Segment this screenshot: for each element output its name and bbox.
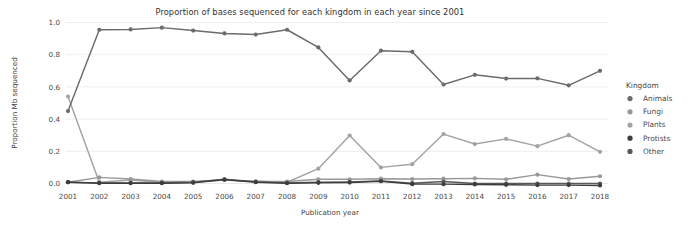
legend-label-animals[interactable]: Animals xyxy=(643,94,673,103)
x-tick-label: 2012 xyxy=(403,192,421,201)
x-tick-label: 2017 xyxy=(560,192,578,201)
data-point-animals xyxy=(441,82,445,86)
data-point-protists xyxy=(128,181,132,185)
x-tick-label: 2009 xyxy=(309,192,328,201)
data-point-protists xyxy=(504,183,508,187)
y-tick-label: 0.2 xyxy=(49,147,60,156)
chart-figure: Proportion of bases sequenced for each k… xyxy=(0,0,695,227)
data-point-animals xyxy=(191,28,195,32)
chart-legend: KingdomAnimalsFungiPlantsProtistsOther xyxy=(626,81,673,156)
data-point-protists xyxy=(191,181,195,185)
x-tick-label: 2015 xyxy=(497,192,515,201)
data-point-animals xyxy=(316,45,320,49)
data-point-protists xyxy=(598,183,602,187)
data-point-animals xyxy=(348,78,352,82)
data-point-animals xyxy=(567,83,571,87)
data-point-fungi xyxy=(473,176,477,180)
x-tick-label: 2001 xyxy=(59,192,77,201)
data-point-protists xyxy=(316,181,320,185)
data-point-plants xyxy=(473,142,477,146)
legend-marker-protists[interactable] xyxy=(627,136,632,141)
data-point-animals xyxy=(285,28,289,32)
data-point-plants xyxy=(567,133,571,137)
data-point-protists xyxy=(441,182,445,186)
data-point-plants xyxy=(66,94,70,98)
y-tick-label: 0.4 xyxy=(49,115,61,124)
legend-marker-plants[interactable] xyxy=(627,122,632,127)
data-point-animals xyxy=(473,73,477,77)
data-point-protists xyxy=(254,180,258,184)
data-point-protists xyxy=(97,181,101,185)
y-tick-label: 1.0 xyxy=(49,18,61,27)
x-tick-label: 2014 xyxy=(466,192,485,201)
legend-marker-animals[interactable] xyxy=(627,96,632,101)
legend-label-plants[interactable]: Plants xyxy=(643,120,666,129)
x-tick-label: 2013 xyxy=(434,192,452,201)
data-point-animals xyxy=(222,31,226,35)
data-point-protists xyxy=(379,179,383,183)
y-tick-label: 0.8 xyxy=(49,50,61,59)
data-point-animals xyxy=(410,50,414,54)
data-point-fungi xyxy=(128,177,132,181)
x-axis-label: Publication year xyxy=(301,208,359,217)
data-point-animals xyxy=(254,32,258,36)
series-line-animals xyxy=(68,28,600,111)
data-point-fungi xyxy=(567,177,571,181)
data-point-protists xyxy=(285,181,289,185)
x-tick-label: 2016 xyxy=(528,192,547,201)
x-tick-label: 2010 xyxy=(340,192,359,201)
data-point-protists xyxy=(473,182,477,186)
data-point-plants xyxy=(316,167,320,171)
data-point-protists xyxy=(66,180,70,184)
x-tick-label: 2008 xyxy=(278,192,297,201)
x-axis-tick-labels: 2001200220032004200520062007200820092010… xyxy=(59,192,610,201)
data-point-protists xyxy=(535,183,539,187)
data-point-plants xyxy=(504,137,508,141)
series-line-plants xyxy=(68,97,600,183)
data-point-animals xyxy=(504,76,508,80)
legend-title: Kingdom xyxy=(626,81,659,90)
data-point-fungi xyxy=(535,173,539,177)
data-point-animals xyxy=(160,26,164,30)
data-point-plants xyxy=(535,144,539,148)
data-point-fungi xyxy=(410,177,414,181)
legend-marker-fungi[interactable] xyxy=(627,109,632,114)
data-point-protists xyxy=(410,182,414,186)
series-line-fungi xyxy=(68,175,600,183)
data-point-plants xyxy=(598,150,602,154)
data-point-animals xyxy=(66,109,70,113)
data-point-animals xyxy=(598,69,602,73)
data-point-fungi xyxy=(598,174,602,178)
y-axis-label: Proportion Mb sequenced xyxy=(10,57,19,149)
legend-label-fungi[interactable]: Fungi xyxy=(643,107,663,116)
y-axis-tick-labels: 0.00.20.40.60.81.0 xyxy=(49,18,61,188)
x-tick-label: 2006 xyxy=(215,192,234,201)
y-tick-label: 0.0 xyxy=(49,179,61,188)
y-tick-label: 0.6 xyxy=(49,83,61,92)
data-point-fungi xyxy=(97,175,101,179)
data-point-fungi xyxy=(504,177,508,181)
data-point-animals xyxy=(128,27,132,31)
data-point-plants xyxy=(441,132,445,136)
data-point-plants xyxy=(379,165,383,169)
data-point-protists xyxy=(160,181,164,185)
data-point-protists xyxy=(567,183,571,187)
data-series-group xyxy=(66,26,602,188)
x-tick-label: 2004 xyxy=(153,192,172,201)
x-tick-label: 2002 xyxy=(90,192,108,201)
x-tick-label: 2018 xyxy=(591,192,610,201)
data-point-protists xyxy=(348,180,352,184)
legend-label-other[interactable]: Other xyxy=(643,147,665,156)
data-point-plants xyxy=(348,133,352,137)
legend-label-protists[interactable]: Protists xyxy=(643,134,670,143)
x-tick-label: 2003 xyxy=(121,192,139,201)
data-point-animals xyxy=(97,28,101,32)
gridlines xyxy=(66,23,608,184)
x-tick-label: 2005 xyxy=(184,192,202,201)
data-point-protists xyxy=(222,178,226,182)
data-point-animals xyxy=(535,76,539,80)
data-point-plants xyxy=(410,162,414,166)
legend-marker-other[interactable] xyxy=(627,149,632,154)
data-point-animals xyxy=(379,49,383,53)
x-tick-label: 2007 xyxy=(247,192,265,201)
